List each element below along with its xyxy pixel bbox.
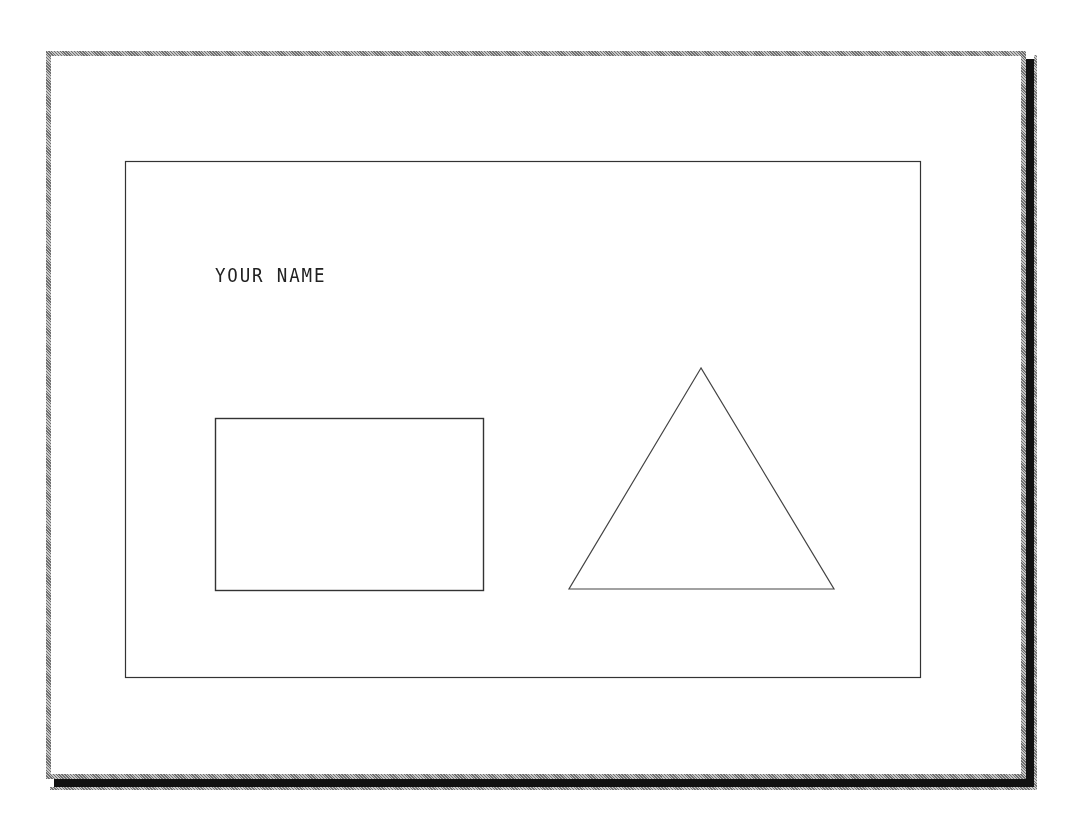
rectangle-shape bbox=[216, 419, 484, 591]
drawing-border-rectangle bbox=[126, 162, 921, 678]
drawing-canvas bbox=[0, 0, 1074, 827]
name-label: YOUR NAME bbox=[215, 264, 326, 286]
triangle-shape bbox=[569, 368, 834, 589]
